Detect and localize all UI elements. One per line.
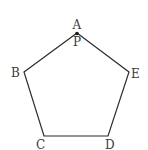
vertex-label-e: E <box>131 67 140 81</box>
pentagon-diagram: A P B E C D <box>0 0 148 150</box>
point-label-p: P <box>73 35 81 49</box>
vertex-label-b: B <box>11 66 20 80</box>
vertex-label-c: C <box>36 138 45 150</box>
vertex-label-a: A <box>72 18 82 32</box>
vertex-label-d: D <box>105 138 115 150</box>
